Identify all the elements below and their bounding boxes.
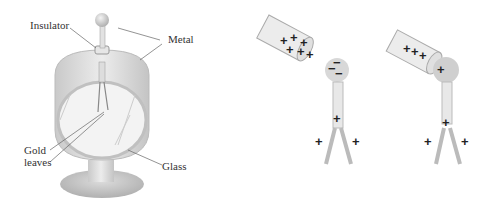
svg-text:+: + <box>297 44 305 59</box>
svg-text:+: + <box>352 134 360 149</box>
induction-diagram: +++ +++ −−− + ++ <box>257 15 360 164</box>
svg-text:−: − <box>335 66 343 81</box>
svg-text:+: + <box>442 115 450 130</box>
leaves-1 <box>326 128 351 164</box>
svg-text:+: + <box>411 44 419 59</box>
leaves-2 <box>436 128 460 164</box>
label-gold-line2: leaves <box>24 156 51 168</box>
label-metal: Metal <box>168 33 194 45</box>
label-glass: Glass <box>162 160 186 172</box>
base-stem <box>88 160 114 182</box>
svg-text:+: + <box>403 41 411 56</box>
svg-text:+: + <box>306 47 314 62</box>
electroscope-figure: Insulator Metal Gold leaves Glass +++ ++… <box>0 0 490 210</box>
electroscope-apparatus <box>55 13 149 198</box>
glass-window <box>58 82 146 158</box>
svg-text:+: + <box>437 62 445 77</box>
svg-text:+: + <box>461 134 469 149</box>
svg-text:+: + <box>315 134 323 149</box>
svg-text:+: + <box>286 42 294 57</box>
conduction-diagram: +++ + + ++ <box>386 30 469 164</box>
metal-knob <box>95 13 109 27</box>
svg-text:+: + <box>333 111 341 126</box>
svg-text:+: + <box>424 134 432 149</box>
svg-text:+: + <box>419 48 427 63</box>
label-gold-line1: Gold <box>24 144 47 156</box>
rod <box>99 62 105 82</box>
label-insulator: Insulator <box>30 19 69 31</box>
